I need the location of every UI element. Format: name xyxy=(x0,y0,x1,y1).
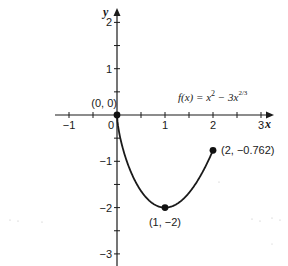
x-tick-label: −1 xyxy=(63,119,76,131)
function-plot: −10123−3−2−112 x y f(x) = x2 − 3x2/3 (0,… xyxy=(0,0,288,266)
x-tick-label: 2 xyxy=(210,119,216,131)
x-tick-label: 0 xyxy=(108,119,114,131)
function-label: f(x) = x2 − 3x2/3 xyxy=(178,89,248,104)
x-tick-label: 1 xyxy=(162,119,168,131)
y-tick-label: −2 xyxy=(99,202,112,214)
y-axis-label: y xyxy=(101,5,109,19)
x-axis-label: x xyxy=(264,117,271,131)
point-label: (0, 0) xyxy=(91,97,117,109)
y-tick-label: −3 xyxy=(99,248,112,260)
x-tick-label: 3 xyxy=(258,119,264,131)
point-marker xyxy=(210,147,217,154)
scan-noise xyxy=(9,181,280,244)
point-label: (2, −0.762) xyxy=(221,144,275,156)
y-tick-label: −1 xyxy=(99,155,112,167)
point-marker xyxy=(162,204,169,211)
point-label: (1, −2) xyxy=(149,216,181,228)
point-marker xyxy=(114,112,121,119)
y-axis-arrow-icon xyxy=(114,8,121,16)
y-tick-label: 1 xyxy=(106,63,112,75)
